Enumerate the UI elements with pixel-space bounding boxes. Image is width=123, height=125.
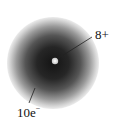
electron-count-text: 10e (17, 105, 36, 120)
nucleus-charge-label: 8+ (95, 28, 109, 41)
atom-diagram: 8+ 10e− (0, 0, 123, 125)
electron-charge-sign: − (36, 104, 41, 113)
electron-count-label: 10e− (17, 106, 40, 119)
